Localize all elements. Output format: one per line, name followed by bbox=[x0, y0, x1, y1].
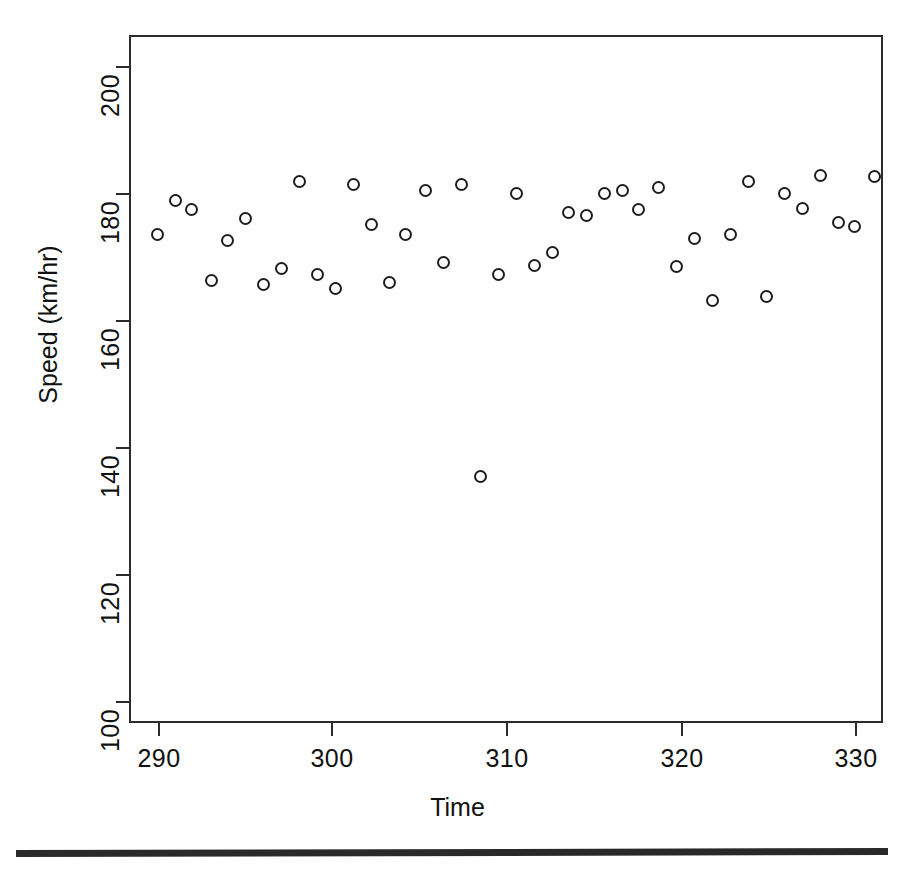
y-tick-label-140: 140 bbox=[96, 447, 125, 507]
x-tick-320 bbox=[681, 723, 684, 736]
page-edge-rule bbox=[16, 848, 888, 857]
x-tick-label-330: 330 bbox=[816, 744, 896, 773]
x-tick-290 bbox=[158, 723, 161, 736]
x-tick-300 bbox=[331, 723, 334, 736]
x-tick-label-300: 300 bbox=[292, 744, 372, 773]
y-tick-label-160: 160 bbox=[96, 320, 125, 380]
x-tick-label-310: 310 bbox=[467, 744, 547, 773]
y-tick-label-200: 200 bbox=[96, 66, 125, 126]
scatter-plot-figure: 100120140160180200290300310320330 Speed … bbox=[0, 0, 915, 873]
x-tick-label-290: 290 bbox=[119, 744, 199, 773]
x-tick-label-320: 320 bbox=[642, 744, 722, 773]
x-tick-310 bbox=[506, 723, 509, 736]
y-tick-label-180: 180 bbox=[96, 193, 125, 253]
y-tick-label-120: 120 bbox=[96, 574, 125, 634]
y-axis-label: Speed (km/hr) bbox=[34, 230, 63, 420]
plot-area-border bbox=[129, 35, 883, 723]
x-axis-label: Time bbox=[0, 793, 915, 822]
x-tick-330 bbox=[855, 723, 858, 736]
